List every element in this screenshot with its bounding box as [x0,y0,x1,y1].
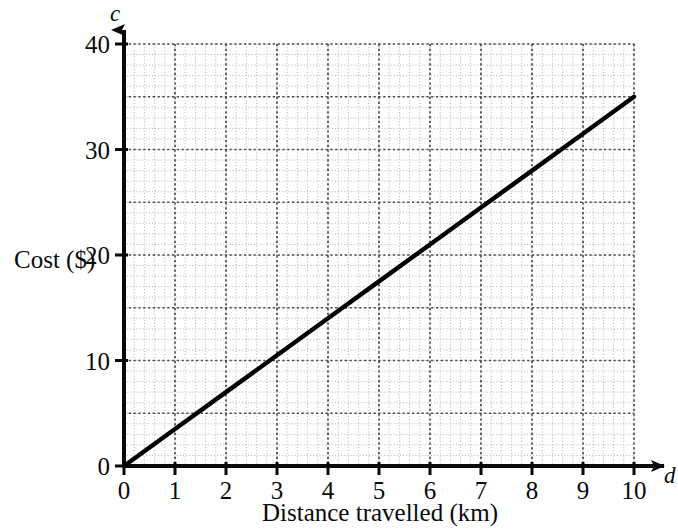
x-tick-label: 4 [303,478,353,503]
x-tick-label: 7 [456,478,506,503]
y-tick-label: 30 [58,138,110,163]
x-tick-label: 6 [405,478,455,503]
x-tick-label: 2 [201,478,251,503]
y-axis-variable-label: c [110,2,120,25]
x-axis-variable-label: d [664,464,676,487]
x-tick-label: 8 [507,478,557,503]
x-tick-label: 0 [99,478,149,503]
y-tick-label: 40 [58,32,110,57]
x-tick-label: 5 [354,478,404,503]
x-tick-label: 1 [150,478,200,503]
x-tick-label: 3 [252,478,302,503]
y-axis-ticks [115,44,128,466]
x-tick-label: 10 [609,478,659,503]
x-axis-ticks [124,462,634,475]
chart-figure: c d Cost ($) Distance travelled (km) 010… [0,0,678,530]
x-tick-label: 9 [558,478,608,503]
y-tick-label: 20 [58,243,110,268]
y-tick-label: 10 [58,349,110,374]
y-tick-label: 0 [58,454,110,479]
